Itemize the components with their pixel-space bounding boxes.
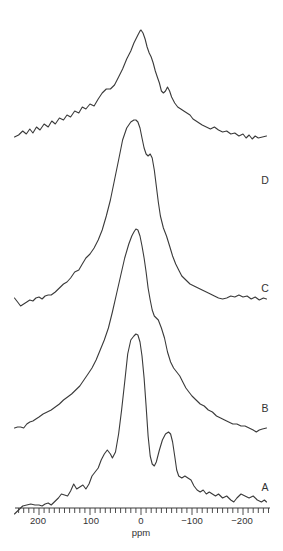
spectrum-trace-c <box>15 120 267 306</box>
tick-label-0: 0 <box>138 515 143 526</box>
tick-label-neg200: −200 <box>231 515 252 526</box>
trace-label-d: D <box>261 174 269 186</box>
x-axis-title: ppm <box>132 527 151 538</box>
tick-label-100: 100 <box>83 515 99 526</box>
trace-label-a: A <box>261 481 268 493</box>
trace-label-b: B <box>261 402 268 414</box>
spectrum-trace-b <box>15 229 267 432</box>
spectrum-trace-a <box>15 334 267 514</box>
x-axis: 200 100 0 −100 −200 ppm <box>15 508 270 538</box>
trace-label-c: C <box>261 282 269 294</box>
x-axis-ticks <box>19 508 269 515</box>
spectrum-traces <box>15 30 267 514</box>
tick-label-200: 200 <box>30 515 46 526</box>
nmr-spectra-chart: D C B A 200 100 0 −100 −200 ppm <box>0 0 283 551</box>
spectrum-trace-d <box>15 30 267 139</box>
tick-label-neg100: −100 <box>181 515 202 526</box>
